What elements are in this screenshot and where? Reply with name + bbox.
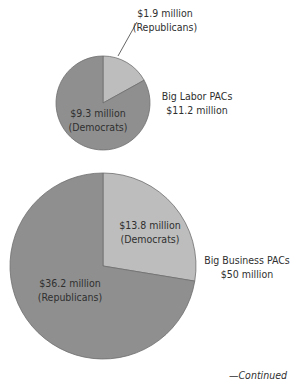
business-democrats-label-amount: $13.8 million — [119, 219, 181, 231]
labor-republicans-label-amount: $1.9 million — [137, 7, 193, 19]
business-democrats-label-party: (Democrats) — [121, 233, 180, 245]
big-business-pie — [10, 173, 196, 359]
business-republicans-label-party: (Republicans) — [38, 291, 102, 303]
labor-democrats-label-party: (Democrats) — [69, 121, 128, 133]
labor-democrats-label-amount: $9.3 million — [70, 107, 126, 119]
business-republicans-label-amount: $36.2 million — [39, 277, 101, 289]
business-pie-title: Big Business PACs — [204, 254, 290, 266]
labor-republicans-label-party: (Republicans) — [133, 21, 197, 33]
labor-pie-total: $11.2 million — [166, 104, 228, 116]
continued-note: —Continued — [229, 369, 288, 381]
business-pie-total: $50 million — [221, 268, 274, 280]
big-labor-pie — [56, 56, 150, 150]
pie-charts: $1.9 million (Republicans) $9.3 million … — [0, 0, 296, 382]
labor-pie-title: Big Labor PACs — [162, 90, 233, 102]
